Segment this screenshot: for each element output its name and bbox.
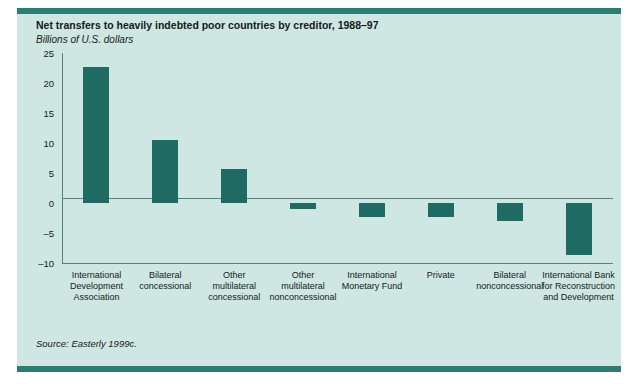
category-label: International Bankfor Reconstructionand … bbox=[538, 270, 619, 303]
chart-title: Net transfers to heavily indebted poor c… bbox=[36, 19, 379, 31]
y-tick-label: 5 bbox=[20, 168, 54, 179]
y-axis-line bbox=[62, 53, 63, 264]
category-label-line: for Reconstruction bbox=[538, 281, 619, 292]
top-rule bbox=[17, 8, 621, 14]
bar bbox=[428, 203, 454, 217]
y-tick-label: 20 bbox=[20, 78, 54, 89]
figure-root: Net transfers to heavily indebted poor c… bbox=[0, 0, 637, 386]
category-label-line: Monetary Fund bbox=[332, 281, 413, 292]
category-label-line: nonconcessional bbox=[263, 292, 344, 303]
y-tick-label: 15 bbox=[20, 108, 54, 119]
zero-baseline bbox=[62, 198, 613, 199]
bar bbox=[152, 140, 178, 203]
bar bbox=[83, 67, 109, 203]
page-header-fragment bbox=[520, 0, 630, 7]
bar bbox=[497, 203, 523, 221]
category-label-line: Association bbox=[56, 292, 137, 303]
bar bbox=[359, 203, 385, 217]
bar bbox=[290, 203, 316, 209]
plot-bottom-line bbox=[62, 263, 613, 264]
category-label-line: International Bank bbox=[538, 270, 619, 281]
y-tick-label: –10 bbox=[20, 258, 54, 269]
bar bbox=[221, 169, 247, 203]
source-note: Source: Easterly 1999c. bbox=[36, 338, 137, 349]
y-tick-label: 25 bbox=[20, 48, 54, 59]
y-tick-label: 0 bbox=[20, 198, 54, 209]
bottom-rule bbox=[17, 366, 621, 372]
y-tick-label: –5 bbox=[20, 228, 54, 239]
chart-subtitle: Billions of U.S. dollars bbox=[36, 34, 133, 45]
category-label-line: and Development bbox=[538, 292, 619, 303]
y-tick-label: 10 bbox=[20, 138, 54, 149]
bar bbox=[566, 203, 592, 255]
